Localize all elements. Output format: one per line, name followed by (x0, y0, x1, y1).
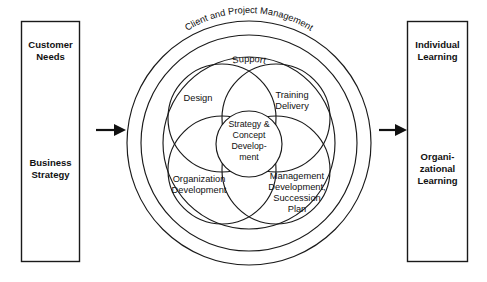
outer-ring-label: Client and Project Management (183, 5, 315, 33)
petal-label-training-delivery-2: Delivery (275, 101, 309, 111)
output-box-line-5: Learning (417, 175, 457, 186)
petal-label-training-delivery-1: Training (275, 90, 308, 100)
arrow-input-icon (96, 124, 126, 136)
core-label-4: ment (239, 152, 259, 162)
input-box-line-1: Customer (28, 39, 73, 50)
input-box-line-3: Business (29, 157, 71, 168)
core-label-1: Strategy & (228, 119, 269, 129)
petal-label-organization-development-1: Organization (173, 174, 226, 184)
input-box-line-2: Needs (36, 51, 65, 62)
arrow-output-icon (379, 124, 407, 136)
output-box-line-1: Individual (415, 39, 459, 50)
output-box-line-4: zational (420, 163, 455, 174)
petal-label-management-development-2: Development, (268, 182, 325, 192)
core-label-3: Develop- (231, 141, 266, 151)
inner-ring-label: Support (232, 54, 268, 66)
diagram-canvas: Customer Needs Business Strategy Individ… (0, 0, 487, 282)
petal-label-design: Design (184, 93, 213, 103)
input-box-line-4: Strategy (31, 169, 70, 180)
core-label-2: Concept (233, 130, 266, 140)
output-box-line-2: Learning (417, 51, 457, 62)
petal-label-management-development-1: Management (270, 171, 325, 181)
output-box-line-3: Organi- (421, 151, 455, 162)
venn-diagram: Customer Needs Business Strategy Individ… (0, 0, 487, 282)
petal-label-organization-development-2: Development (172, 185, 227, 195)
petal-label-management-development-4: Plan (288, 204, 307, 214)
petal-label-management-development-3: Succession (273, 193, 321, 203)
